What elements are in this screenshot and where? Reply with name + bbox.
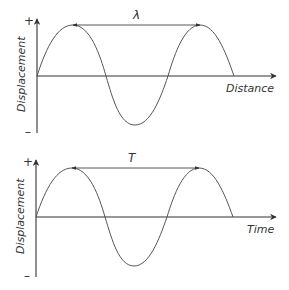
minus-sign: –: [24, 269, 30, 283]
wavelength-graph: + – Displacement Distance λ: [15, 8, 276, 139]
period-graph: + – Displacement Time T: [14, 151, 276, 283]
y-axis-label: Displacement: [14, 178, 27, 254]
x-axis-label: Time: [247, 223, 274, 236]
minus-sign: –: [25, 125, 31, 139]
plus-sign: +: [24, 14, 34, 28]
y-axis-label: Displacement: [15, 36, 28, 112]
period-symbol: T: [128, 151, 137, 165]
wavelength-symbol: λ: [132, 8, 140, 22]
x-axis-label: Distance: [226, 82, 274, 95]
wave-diagrams: + – Displacement Distance λ + – Displace…: [0, 0, 289, 290]
plus-sign: +: [23, 155, 33, 169]
sine-wave: [37, 25, 234, 125]
